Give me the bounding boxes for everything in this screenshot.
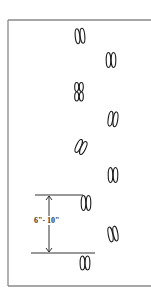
hoof-toe [86, 196, 91, 211]
hoofprint-icon [107, 111, 119, 127]
hoof-toe [75, 83, 79, 92]
hoof-toe [80, 28, 86, 43]
hoofprint-icon [74, 139, 89, 156]
hoof-toe [113, 168, 118, 183]
hoofprint-icon [75, 83, 84, 102]
hoofprint-icon [106, 53, 116, 68]
hoof-toe [106, 53, 111, 68]
hoof-toe [75, 92, 79, 101]
measurement-label: 6"- 10" [33, 216, 61, 225]
hoof-toe [79, 83, 83, 92]
hoof-toe [85, 256, 90, 270]
hoof-toe [75, 29, 81, 44]
hoofprint-icon [81, 196, 91, 211]
hoof-toe [108, 168, 113, 183]
tracks-layer [74, 28, 119, 270]
hoof-toe [111, 53, 116, 68]
hoof-toe [79, 92, 83, 101]
hoofprint-icon [108, 168, 118, 183]
hoofprint-icon [107, 226, 119, 242]
hoof-toe [80, 256, 85, 270]
hoofprint-icon [80, 256, 90, 270]
hoofprint-icon [75, 28, 86, 44]
track-diagram [0, 0, 151, 301]
hoof-toe [81, 196, 86, 211]
